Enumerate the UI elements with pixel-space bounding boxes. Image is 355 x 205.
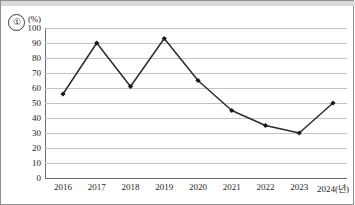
x-tick-label-1: 2017: [88, 182, 106, 192]
plot-area: 0102030405060708090100 20162017201820192…: [45, 28, 347, 178]
data-point-2022: [263, 123, 268, 128]
y-tick-label-0: 0: [37, 173, 42, 183]
x-tick-label-6: 2022: [257, 182, 275, 192]
x-tick-label-5: 2021: [223, 182, 241, 192]
x-tick-label-4: 2020: [189, 182, 207, 192]
y-tick-label-40: 40: [32, 113, 41, 123]
y-tick-label-90: 90: [32, 38, 41, 48]
y-tick-label-70: 70: [32, 68, 41, 78]
x-tick-label-0: 2016: [54, 182, 72, 192]
x-tick-label-2: 2018: [122, 182, 140, 192]
series-line: [63, 39, 333, 134]
y-tick-label-30: 30: [32, 128, 41, 138]
y-tick-label-60: 60: [32, 83, 41, 93]
gridline-0: [45, 178, 347, 179]
y-tick-label-100: 100: [28, 23, 42, 33]
line-series: [45, 28, 347, 178]
y-tick-label-20: 20: [32, 143, 41, 153]
item-number-badge: ①: [8, 14, 25, 31]
y-tick-label-50: 50: [32, 98, 41, 108]
x-tick-label-7: 2023: [290, 182, 308, 192]
top-banner-strip: [1, 1, 355, 6]
x-tick-label-3: 2019: [155, 182, 173, 192]
y-tick-label-10: 10: [32, 158, 41, 168]
y-tick-label-80: 80: [32, 53, 41, 63]
x-tick-label-8: 2024(년): [317, 182, 349, 195]
